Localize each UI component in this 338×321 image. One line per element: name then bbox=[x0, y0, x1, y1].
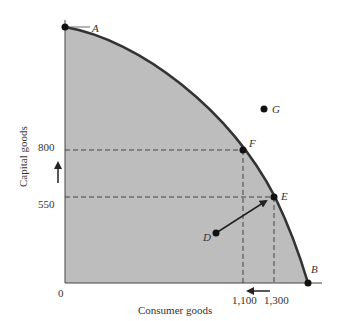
y-tick-550: 550 bbox=[38, 198, 55, 210]
y-axis-label: Capital goods bbox=[17, 126, 29, 187]
label-d: D bbox=[202, 231, 211, 243]
label-g: G bbox=[272, 103, 280, 115]
point-d bbox=[213, 230, 220, 237]
point-f bbox=[240, 147, 247, 154]
x-tick-1100: 1,100 bbox=[232, 294, 257, 306]
x-tick-1300: 1,300 bbox=[264, 294, 289, 306]
label-b: B bbox=[311, 263, 318, 275]
origin-label: 0 bbox=[58, 287, 64, 299]
label-f: F bbox=[248, 137, 256, 149]
point-e bbox=[271, 194, 278, 201]
y-tick-800: 800 bbox=[38, 141, 55, 153]
ppf-diagram: A F E B D G 800 550 1,100 1,300 0 Consum… bbox=[0, 0, 338, 321]
x-axis-label: Consumer goods bbox=[138, 304, 212, 316]
label-e: E bbox=[280, 190, 288, 202]
point-g bbox=[261, 106, 268, 113]
label-a: A bbox=[91, 22, 99, 34]
point-b bbox=[305, 280, 312, 287]
feasible-region bbox=[65, 27, 308, 283]
point-a bbox=[62, 24, 69, 31]
